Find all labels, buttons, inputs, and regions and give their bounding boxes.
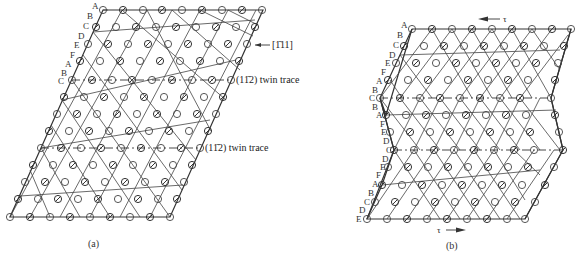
figure-b-caption: (b) [446,240,458,251]
stacking-label: E [356,215,362,224]
stacking-label: C [83,22,89,31]
stacking-label: A [401,21,408,30]
shear-arrow-top-head [478,17,488,22]
stacking-label: C [58,77,64,86]
figure-a-lattice-lines [10,10,258,217]
shear-arrow-bottom-head [456,228,466,233]
figure-a [6,6,270,220]
figure-b-lattice-lines [367,29,568,219]
direction-label: [1̄11] [272,40,293,50]
twin-trace-label-upper: (11̄2) twin trace [236,75,300,85]
shear-label-bottom: τ [437,225,441,235]
stacking-label: B [87,12,93,21]
stacking-label: C [393,41,399,50]
direction-arrow-head [255,43,261,47]
twin-trace-label-lower: (11̄2) twin trace [205,143,269,153]
figure-a-caption: (a) [88,238,99,249]
stacking-label: A [92,2,99,11]
shear-label-top: τ [503,14,507,24]
stacking-label: B [397,31,403,40]
stacking-label: E [74,41,80,50]
